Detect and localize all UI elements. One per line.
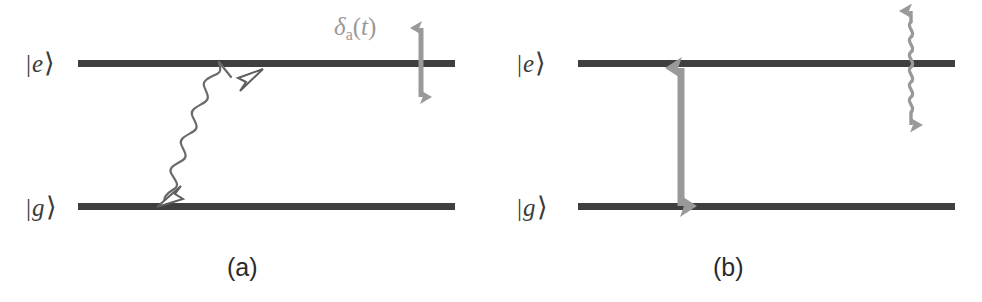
panel-caption-b: (b) [713, 255, 744, 280]
time-variable: t [361, 13, 368, 40]
panel-caption-a: (a) [227, 255, 258, 280]
ket-angle: ⟩ [46, 192, 57, 222]
ket-label-excited-b: |e⟩ [517, 50, 546, 77]
ket-label-excited-a: |e⟩ [26, 50, 55, 77]
ket-label-ground-b: |g⟩ [517, 194, 548, 221]
delta-symbol: δ [334, 13, 346, 40]
excited-level-line-a [78, 60, 455, 67]
wavy-arrowhead-upper-a [238, 69, 263, 91]
ket-angle: ⟩ [535, 48, 546, 78]
excited-level-line-b [578, 60, 955, 67]
open-paren: ( [353, 13, 361, 40]
ket-angle: ⟩ [537, 192, 548, 222]
ket-letter: g [31, 194, 46, 221]
decay-wavy-arrow-b [909, 11, 912, 125]
delta-subscript: a [346, 26, 353, 43]
panel-b: |e⟩ |g⟩ Ω(t) (b) [491, 0, 982, 302]
energy-level-figure: |e⟩ |g⟩ δa(t) (a) [0, 0, 982, 302]
ket-letter: e [522, 50, 535, 77]
close-paren: ) [368, 13, 376, 40]
ket-letter: g [522, 194, 537, 221]
ground-level-line-b [578, 203, 955, 210]
ground-level-line-a [78, 203, 455, 210]
panel-a: |e⟩ |g⟩ δa(t) (a) [0, 0, 491, 302]
spontaneous-emission-wavy-arrow-a [164, 62, 231, 204]
detuning-label: δa(t) [334, 14, 376, 43]
ket-angle: ⟩ [44, 48, 55, 78]
ket-label-ground-a: |g⟩ [26, 194, 57, 221]
ket-letter: e [31, 50, 44, 77]
